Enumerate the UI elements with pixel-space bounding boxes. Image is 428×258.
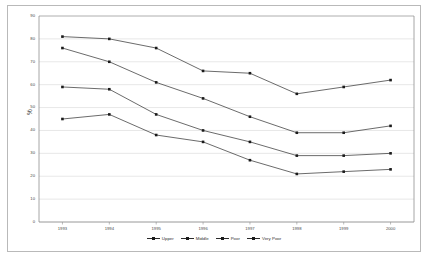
y-axis-tick-label: 30 xyxy=(13,151,35,155)
series-line-very-poor xyxy=(62,114,390,174)
legend-item-very-poor[interactable]: Very Poor xyxy=(247,236,281,241)
data-point-marker xyxy=(108,60,111,63)
data-point-marker xyxy=(389,168,392,171)
series-layer xyxy=(61,35,392,175)
data-point-marker xyxy=(296,173,299,176)
legend-marker-icon xyxy=(147,236,160,241)
data-point-marker xyxy=(61,47,64,50)
y-axis-tick-label: 20 xyxy=(13,174,35,178)
legend-item-middle[interactable]: Middle xyxy=(181,236,209,241)
data-point-marker xyxy=(61,35,64,38)
y-axis-tick-label: 10 xyxy=(13,197,35,201)
data-point-marker xyxy=(108,113,111,116)
data-point-marker xyxy=(202,129,205,132)
data-point-marker xyxy=(342,86,345,89)
data-point-marker xyxy=(296,154,299,157)
y-axis-tick-label: 70 xyxy=(13,60,35,64)
legend-marker-icon xyxy=(181,236,194,241)
data-point-marker xyxy=(296,131,299,134)
y-axis-tick-label: 50 xyxy=(13,105,35,109)
data-point-marker xyxy=(202,70,205,73)
data-point-marker xyxy=(249,159,252,162)
legend-marker-icon xyxy=(247,236,260,241)
data-point-marker xyxy=(108,88,111,91)
data-point-marker xyxy=(155,113,158,116)
x-axis-tick-label: 1995 xyxy=(136,227,176,231)
data-point-marker xyxy=(342,170,345,173)
data-point-marker xyxy=(155,81,158,84)
data-point-marker xyxy=(389,79,392,82)
data-point-marker xyxy=(249,115,252,118)
x-axis-tick-label: 1996 xyxy=(183,227,223,231)
y-axis-tick-label: 90 xyxy=(13,14,35,18)
legend-label: Upper xyxy=(162,236,174,241)
legend-marker-icon xyxy=(216,236,229,241)
data-point-marker xyxy=(155,134,158,137)
y-axis-tick-label: 0 xyxy=(13,220,35,224)
line-chart-plot xyxy=(0,0,428,258)
legend-item-poor[interactable]: Poor xyxy=(216,236,240,241)
legend-item-upper[interactable]: Upper xyxy=(147,236,174,241)
x-axis-tick-label: 1994 xyxy=(89,227,129,231)
legend-label: Middle xyxy=(196,236,209,241)
data-point-marker xyxy=(108,38,111,41)
series-line-upper xyxy=(62,37,390,94)
data-point-marker xyxy=(389,125,392,128)
x-axis-tick-label: 1999 xyxy=(324,227,364,231)
plot-frame xyxy=(39,16,414,225)
x-axis-tick-label: 1998 xyxy=(277,227,317,231)
data-point-marker xyxy=(155,47,158,50)
x-axis-tick-label: 1997 xyxy=(230,227,270,231)
legend-label: Poor xyxy=(231,236,240,241)
data-point-marker xyxy=(296,93,299,96)
data-point-marker xyxy=(61,86,64,89)
y-axis-tick-label: 40 xyxy=(13,128,35,132)
data-point-marker xyxy=(202,97,205,100)
data-point-marker xyxy=(342,131,345,134)
legend-label: Very Poor xyxy=(262,236,281,241)
y-axis-tick-label: 60 xyxy=(13,83,35,87)
x-axis-tick-label: 1993 xyxy=(42,227,82,231)
chart-legend: UpperMiddlePoorVery Poor xyxy=(0,236,428,241)
data-point-marker xyxy=(61,118,64,121)
data-point-marker xyxy=(249,72,252,75)
data-point-marker xyxy=(342,154,345,157)
x-axis-tick-label: 2000 xyxy=(371,227,411,231)
gridlines xyxy=(39,16,414,222)
chart-figure: % 0102030405060708090 199319941995199619… xyxy=(0,0,428,258)
data-point-marker xyxy=(202,141,205,144)
y-axis-tick-label: 80 xyxy=(13,37,35,41)
data-point-marker xyxy=(389,152,392,155)
series-line-poor xyxy=(62,87,390,156)
data-point-marker xyxy=(249,141,252,144)
